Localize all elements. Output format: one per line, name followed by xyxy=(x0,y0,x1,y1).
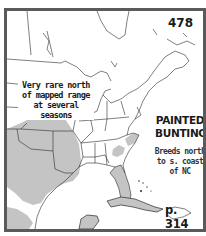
plate-number: 478 xyxy=(166,16,195,30)
range-map-frame: 478 Very rare north of mapped range at s… xyxy=(4,8,206,232)
range-area-mexico xyxy=(7,207,33,229)
breeding-note: Breeds north to s. coast of NC xyxy=(154,147,206,177)
range-area-southeast xyxy=(112,145,125,157)
bahamas xyxy=(138,180,151,192)
range-note: Very rare north of mapped range at sever… xyxy=(18,80,94,120)
species-name: PAINTED BUNTING xyxy=(155,114,205,140)
yucatan xyxy=(79,215,99,229)
cuba xyxy=(107,197,163,212)
page-reference: p. 314 xyxy=(165,203,203,231)
range-area-south-central xyxy=(7,112,81,205)
